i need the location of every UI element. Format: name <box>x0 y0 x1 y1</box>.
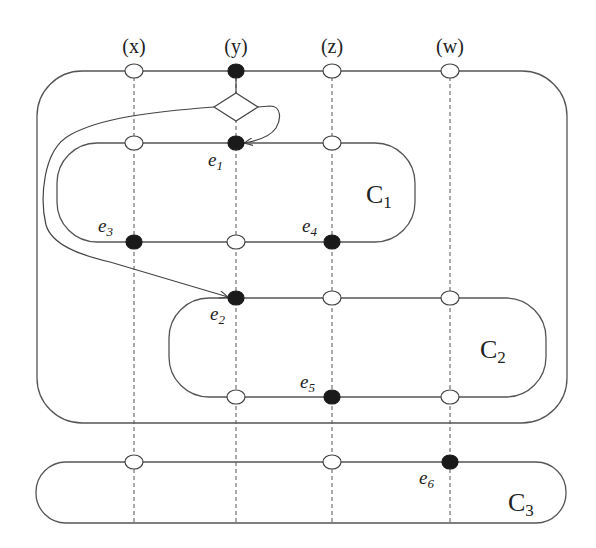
node-outer-y <box>228 64 244 78</box>
nodes <box>125 64 459 469</box>
node-e4 <box>324 235 340 249</box>
node-c3-x <box>125 455 143 469</box>
decision-diamond <box>214 93 258 121</box>
node-e2 <box>228 291 244 305</box>
node-e5 <box>324 390 340 404</box>
node-c1-top-z <box>323 136 341 150</box>
node-c2-top-w <box>441 291 459 305</box>
column-label-x: (x) <box>122 35 145 58</box>
node-c1-bottom-y <box>227 235 245 249</box>
component-c3 <box>36 462 566 523</box>
node-c3-z <box>323 455 341 469</box>
event-label-e6: e6 <box>419 467 434 491</box>
node-outer-x <box>125 64 143 78</box>
component-label-c2: C2 <box>480 335 506 367</box>
causality-diagram: (x) (y) (z) (w) C1 C2 C3 e1 e2 e3 e4 e5 … <box>0 0 596 548</box>
node-c2-top-z <box>323 291 341 305</box>
column-label-w: (w) <box>436 35 464 58</box>
node-c1-top-x <box>125 136 143 150</box>
node-outer-w <box>441 64 459 78</box>
node-e1 <box>228 136 244 150</box>
node-e3 <box>126 235 142 249</box>
event-label-e3: e3 <box>98 215 113 239</box>
event-label-e1: e1 <box>208 149 223 173</box>
column-label-y: (y) <box>224 35 247 58</box>
component-label-c1: C1 <box>366 180 392 212</box>
event-label-e2: e2 <box>210 303 225 327</box>
node-outer-z <box>323 64 341 78</box>
column-label-z: (z) <box>321 35 343 58</box>
node-e6 <box>442 455 458 469</box>
event-label-e4: e4 <box>302 215 317 239</box>
component-label-c3: C3 <box>508 488 534 520</box>
node-c2-bottom-y <box>227 390 245 404</box>
node-c2-bottom-w <box>441 390 459 404</box>
event-label-e5: e5 <box>300 371 315 395</box>
